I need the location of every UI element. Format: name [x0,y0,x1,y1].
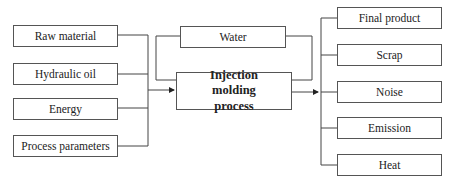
output-scrap: Scrap [337,44,442,66]
box-label: Energy [49,102,82,116]
flow-diagram: Raw material Hydraulic oil Energy Proces… [0,0,455,185]
box-label: Raw material [35,29,97,43]
input-raw-material: Raw material [13,25,118,47]
input-energy: Energy [13,98,118,120]
box-label: Water [219,30,246,44]
output-noise: Noise [337,81,442,103]
box-label: Final product [359,11,421,25]
output-heat: Heat [337,154,442,176]
input-process-parameters: Process parameters [13,135,118,157]
box-label: Scrap [376,48,402,62]
box-label: Hydraulic oil [35,67,96,81]
box-label: Process parameters [21,139,109,153]
box-label: Emission [368,121,411,135]
input-hydraulic-oil: Hydraulic oil [13,63,118,85]
box-label: Heat [379,158,401,172]
box-label: Injection molding process [191,68,277,115]
box-label: Noise [376,85,403,99]
process-injection-molding: Injection molding process [176,72,292,110]
output-final-product: Final product [337,7,442,29]
feedback-water: Water [180,26,286,48]
output-emission: Emission [337,117,442,139]
